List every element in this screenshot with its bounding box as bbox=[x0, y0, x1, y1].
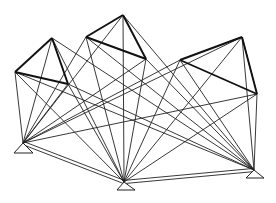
ground-link bbox=[124, 172, 254, 184]
ground-triangle-icon bbox=[246, 170, 264, 178]
connection-line bbox=[123, 15, 124, 182]
pyramid-edge bbox=[52, 38, 68, 84]
ground-link bbox=[124, 168, 254, 180]
connection-line bbox=[254, 94, 257, 170]
connection-line bbox=[15, 72, 23, 143]
connection-line bbox=[23, 60, 180, 143]
connection-line bbox=[123, 15, 254, 170]
pyramid-edge bbox=[15, 38, 52, 72]
connection-line bbox=[23, 37, 242, 143]
connection-line bbox=[124, 59, 146, 182]
connection-line bbox=[23, 38, 52, 143]
pyramid-edge bbox=[86, 15, 123, 37]
pyramid-edge bbox=[15, 72, 68, 84]
connection-line bbox=[23, 15, 123, 143]
ground-link bbox=[24, 142, 125, 181]
connection-line bbox=[68, 84, 124, 182]
pyramid-outlines bbox=[15, 15, 257, 94]
network-diagram bbox=[0, 0, 276, 203]
connection-line bbox=[15, 72, 124, 182]
connection-line bbox=[52, 38, 254, 170]
